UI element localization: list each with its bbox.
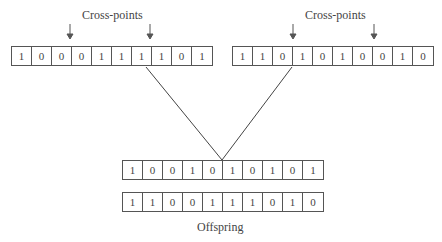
gene: 1 [192, 47, 212, 65]
offspring-chromosome-1: 1 0 0 1 0 1 0 1 0 1 [122, 160, 324, 180]
gene: 1 [253, 47, 273, 65]
gene: 1 [223, 161, 243, 179]
gene: 0 [183, 193, 203, 211]
gene: 0 [283, 161, 303, 179]
gene: 0 [172, 47, 192, 65]
gene: 1 [123, 161, 143, 179]
gene: 0 [52, 47, 72, 65]
gene: 1 [183, 161, 203, 179]
gene: 1 [92, 47, 112, 65]
gene: 1 [152, 47, 172, 65]
gene: 1 [333, 47, 353, 65]
gene: 0 [72, 47, 92, 65]
gene: 1 [393, 47, 413, 65]
cross-points-label-left: Cross-points [82, 8, 143, 23]
gene: 0 [373, 47, 393, 65]
gene: 0 [413, 47, 433, 65]
gene: 1 [283, 193, 303, 211]
gene: 0 [163, 161, 183, 179]
gene: 1 [123, 193, 143, 211]
gene: 0 [303, 193, 323, 211]
gene: 0 [353, 47, 373, 65]
gene: 1 [243, 193, 263, 211]
gene: 0 [203, 161, 223, 179]
gene: 1 [303, 161, 323, 179]
gene: 0 [163, 193, 183, 211]
gene: 1 [112, 47, 132, 65]
gene: 0 [143, 161, 163, 179]
gene: 1 [12, 47, 32, 65]
gene: 1 [132, 47, 152, 65]
gene: 1 [203, 193, 223, 211]
parent2-chromosome: 1 1 0 1 0 1 0 0 1 0 [232, 46, 434, 66]
gene: 0 [243, 161, 263, 179]
offspring-chromosome-2: 1 1 0 0 1 1 1 0 1 0 [122, 192, 324, 212]
gene: 0 [32, 47, 52, 65]
gene: 1 [293, 47, 313, 65]
gene: 1 [143, 193, 163, 211]
cross-points-label-right: Cross-points [305, 8, 366, 23]
gene: 0 [263, 193, 283, 211]
gene: 1 [233, 47, 253, 65]
parent1-chromosome: 1 0 0 0 1 1 1 1 0 1 [11, 46, 213, 66]
gene: 1 [263, 161, 283, 179]
gene: 0 [273, 47, 293, 65]
gene: 0 [313, 47, 333, 65]
gene: 1 [223, 193, 243, 211]
offspring-label: Offspring [197, 220, 243, 235]
